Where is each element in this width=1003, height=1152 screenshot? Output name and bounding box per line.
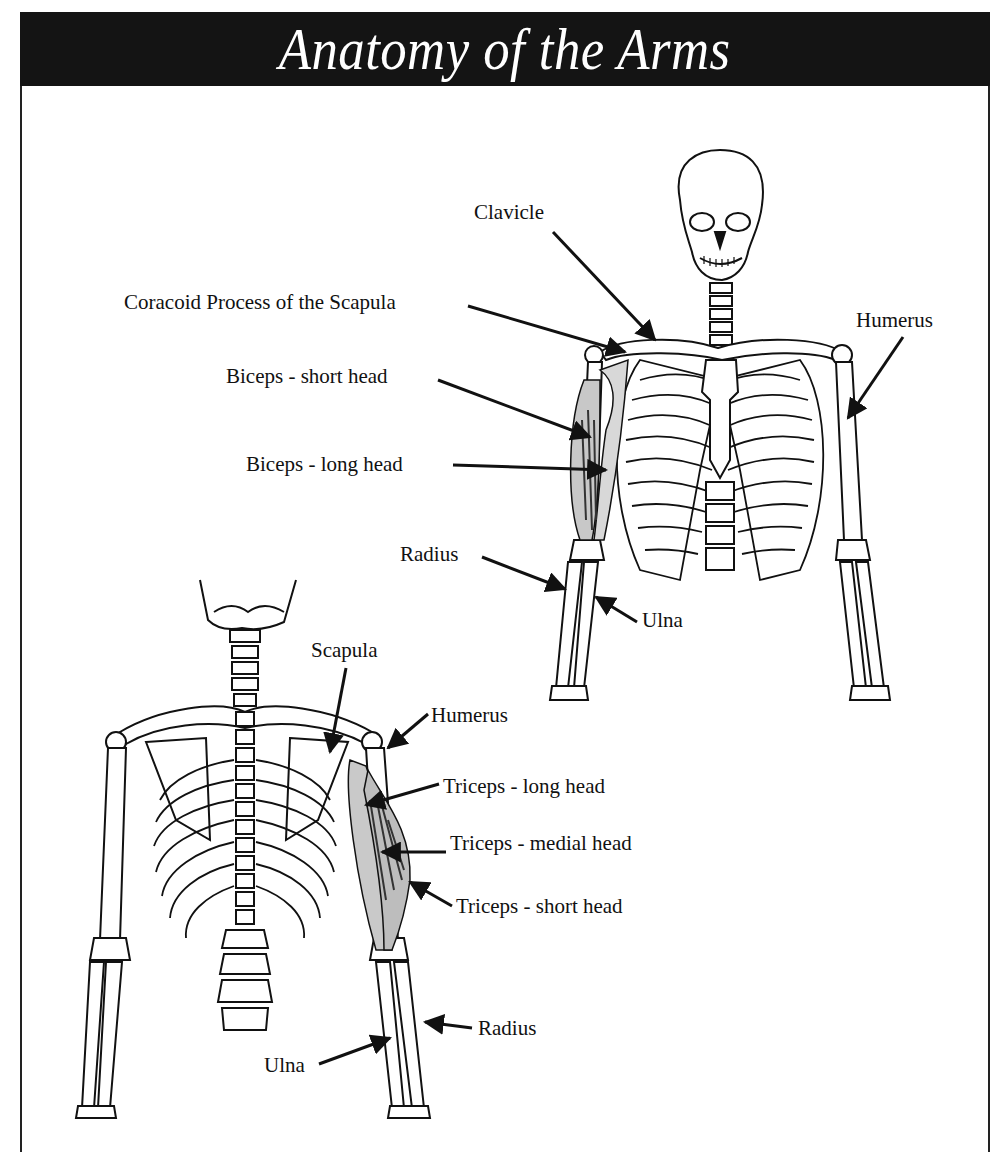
posterior-cervical-spine-icon — [230, 630, 260, 706]
cervical-spine-icon — [710, 283, 732, 345]
posterior-left-arm-bones — [76, 732, 130, 1118]
label-coracoid-process: Coracoid Process of the Scapula — [124, 292, 396, 313]
right-scapula — [286, 738, 348, 840]
label-biceps-long-head: Biceps - long head — [246, 454, 403, 475]
skull-icon — [679, 150, 763, 280]
lumbar-spine-icon — [706, 482, 734, 570]
label-clavicle: Clavicle — [474, 202, 544, 223]
label-triceps-long-head: Triceps - long head — [443, 776, 605, 797]
label-triceps-short-head: Triceps - short head — [456, 896, 623, 917]
biceps-muscle — [571, 360, 628, 540]
thoracic-spine-icon — [236, 712, 254, 924]
label-radius-posterior: Radius — [478, 1018, 536, 1039]
label-ulna-anterior: Ulna — [642, 610, 683, 631]
triceps-muscle — [348, 760, 410, 950]
label-humerus-posterior: Humerus — [431, 705, 508, 726]
label-ulna-posterior: Ulna — [264, 1055, 305, 1076]
label-biceps-short-head: Biceps - short head — [226, 366, 388, 387]
anterior-skeleton — [550, 150, 890, 700]
posterior-lumbar-spine-icon — [218, 930, 272, 1030]
label-triceps-medial-head: Triceps - medial head — [450, 833, 632, 854]
label-radius-anterior: Radius — [400, 544, 458, 565]
label-scapula: Scapula — [311, 640, 377, 661]
label-humerus-anterior: Humerus — [856, 310, 933, 331]
left-scapula — [146, 738, 210, 840]
